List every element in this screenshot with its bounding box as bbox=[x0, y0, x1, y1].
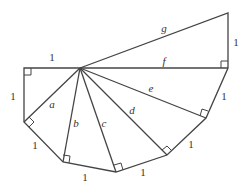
right-angle-mark bbox=[162, 146, 172, 151]
spoke-label-d: d bbox=[129, 105, 135, 116]
edge-label-2: 1 bbox=[10, 91, 16, 102]
spoke-d bbox=[80, 68, 167, 155]
spoke-label-e: e bbox=[149, 83, 154, 94]
spoke-label-c: c bbox=[102, 118, 107, 129]
spokes bbox=[24, 68, 228, 172]
right-triangle-spiral bbox=[0, 0, 247, 189]
spoke-label-a: a bbox=[49, 99, 55, 110]
spoke-label-g: g bbox=[161, 23, 167, 34]
edge-label-4: 1 bbox=[82, 172, 88, 183]
spoke-label-f: f bbox=[162, 56, 165, 67]
right-angle-mark bbox=[24, 68, 31, 75]
edge-label-7: 1 bbox=[221, 91, 227, 102]
edge-label-6: 1 bbox=[188, 139, 194, 150]
spoke-e bbox=[80, 68, 206, 118]
edge-label-3: 1 bbox=[32, 140, 38, 151]
spoke-label-b: b bbox=[73, 118, 79, 129]
right-angle-mark bbox=[29, 117, 34, 127]
edge-label-1: 1 bbox=[49, 52, 55, 63]
spoke-c bbox=[80, 68, 116, 172]
right-angle-mark bbox=[221, 61, 228, 68]
edge-label-5: 1 bbox=[140, 167, 146, 178]
edge-label-8: 1 bbox=[233, 37, 239, 48]
